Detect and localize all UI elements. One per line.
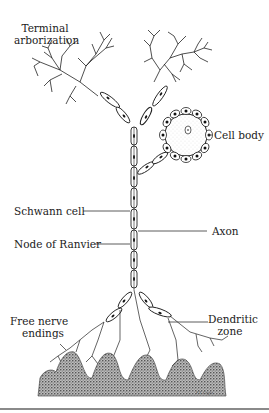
label-terminal-arborization-line2: arborization [14,34,76,46]
artist-signature: F.T. Coyle [196,391,213,395]
bottom-rule [0,408,269,410]
myelin-segments [99,84,173,323]
label-free-nerve-endings: Free nerve endings [10,315,64,339]
label-axon: Axon [212,225,239,237]
label-terminal-arborization-line1: Terminal [14,22,76,34]
dermal-papillae [38,352,226,396]
label-cell-body: Cell body [214,129,264,141]
label-dendritic-zone-line2: zone [208,325,252,337]
label-dendritic-zone-line1: Dendritic [208,313,252,325]
label-schwann-cell: Schwann cell [14,205,85,217]
label-node-of-ranvier: Node of Ranvier [14,238,101,250]
label-free-nerve-endings-line1: Free nerve [10,315,64,327]
label-terminal-arborization: Terminal arborization [14,22,76,46]
label-free-nerve-endings-line2: endings [10,327,64,339]
neuron-diagram: Terminal arborization Cell body Schwann … [0,0,269,413]
label-dendritic-zone: Dendritic zone [208,313,252,337]
